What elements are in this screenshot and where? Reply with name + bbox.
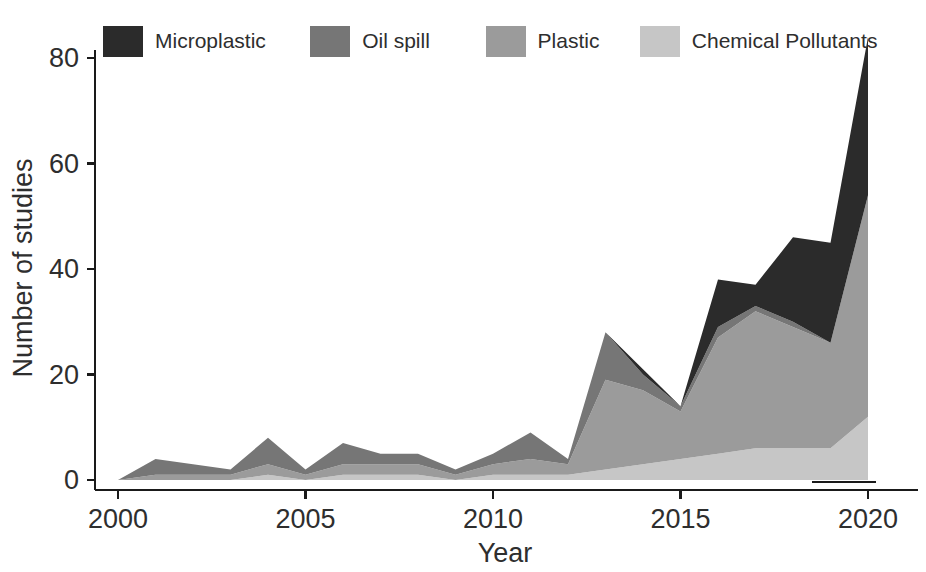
legend-swatch-microplastic xyxy=(103,26,143,57)
area-chart-figure: 20002005201020152020 020406080 Microplas… xyxy=(0,0,926,572)
x-tick-label: 2020 xyxy=(838,504,898,534)
y-axis-title: Number of studies xyxy=(8,158,38,377)
x-axis-title: Year xyxy=(478,538,533,568)
legend: MicroplasticOil spillPlasticChemical Pol… xyxy=(103,26,877,57)
x-tick-label: 2000 xyxy=(88,504,148,534)
legend-label-chemical-pollutants: Chemical Pollutants xyxy=(692,29,878,52)
chart-canvas: 20002005201020152020 020406080 Microplas… xyxy=(0,0,926,572)
y-tick-label: 0 xyxy=(64,465,79,495)
y-tick-label: 20 xyxy=(49,360,79,390)
legend-swatch-plastic xyxy=(486,26,526,57)
y-tick-label: 60 xyxy=(49,149,79,179)
x-tick-label: 2015 xyxy=(650,504,710,534)
x-tick-label: 2010 xyxy=(463,504,523,534)
plot-areas xyxy=(118,37,868,480)
legend-swatch-oil-spill xyxy=(310,26,350,57)
legend-label-oil-spill: Oil spill xyxy=(362,29,430,52)
x-tick-labels: 20002005201020152020 xyxy=(88,504,898,534)
y-tick-label: 40 xyxy=(49,254,79,284)
legend-label-plastic: Plastic xyxy=(538,29,600,52)
y-tick-labels: 020406080 xyxy=(49,43,79,495)
legend-label-microplastic: Microplastic xyxy=(155,29,266,52)
y-tick-label: 80 xyxy=(49,43,79,73)
x-tick-label: 2005 xyxy=(275,504,335,534)
area-series-plastic xyxy=(118,195,868,480)
legend-swatch-chemical-pollutants xyxy=(640,26,680,57)
